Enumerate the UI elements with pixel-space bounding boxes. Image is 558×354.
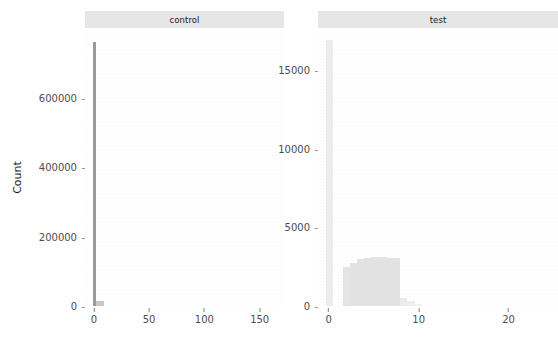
histogram-bar — [357, 259, 364, 306]
histogram-bar — [415, 304, 422, 306]
facet-strip-label-control: control — [169, 15, 199, 25]
histogram-bar — [407, 301, 414, 306]
histogram-bar — [393, 258, 400, 306]
facet-panel-test: test 0-5000-10000-15000- 01020 — [262, 0, 558, 354]
y-tick-labels-control: 0-200000-400000-600000- — [0, 0, 85, 354]
panel-texture-control — [85, 32, 284, 306]
y-tick-label: 0- — [304, 301, 318, 312]
histogram-bar — [364, 258, 371, 306]
x-tick-label: 20 — [502, 308, 515, 325]
chart-figure: Count control 0-200000-400000-600000- 05… — [0, 0, 558, 354]
x-tick-label: 10 — [412, 308, 425, 325]
histogram-bar — [386, 258, 393, 306]
x-tick-labels-control: 050100150 — [85, 308, 284, 338]
x-tick-labels-test: 01020 — [318, 308, 558, 338]
x-tick-label: 100 — [195, 308, 214, 325]
histogram-bar — [326, 40, 333, 306]
histogram-bar — [400, 298, 407, 306]
x-tick-label: 50 — [143, 308, 156, 325]
y-tick-label: 5000- — [285, 222, 318, 233]
histogram-bar — [96, 301, 104, 306]
y-tick-labels-test: 0-5000-10000-15000- — [262, 0, 318, 354]
y-tick-label: 600000- — [39, 92, 85, 103]
histogram-bar — [371, 257, 378, 306]
y-tick-label: 0- — [71, 301, 85, 312]
y-tick-label: 15000- — [278, 64, 318, 75]
histogram-bar — [93, 42, 96, 306]
facet-strip-label-test: test — [430, 15, 447, 25]
facet-strip-control: control — [85, 11, 284, 28]
x-tick-label: 0 — [326, 308, 332, 325]
histogram-bar — [343, 267, 350, 306]
y-tick-label: 200000- — [39, 231, 85, 242]
y-tick-label: 400000- — [39, 162, 85, 173]
plot-area-test — [318, 32, 558, 306]
facet-panel-control: control 0-200000-400000-600000- 05010015… — [0, 0, 284, 354]
y-tick-label: 10000- — [278, 143, 318, 154]
histogram-bar — [379, 257, 386, 306]
x-tick-label: 0 — [91, 308, 97, 325]
plot-area-control — [85, 32, 284, 306]
histogram-bar — [350, 263, 357, 306]
facet-strip-test: test — [318, 11, 558, 28]
